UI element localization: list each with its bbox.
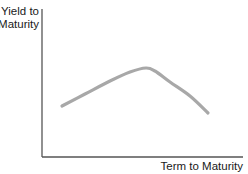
chart-plot-area: [0, 0, 248, 174]
x-axis-label: Term to Maturity: [161, 160, 243, 173]
yield-curve-line: [62, 68, 208, 113]
